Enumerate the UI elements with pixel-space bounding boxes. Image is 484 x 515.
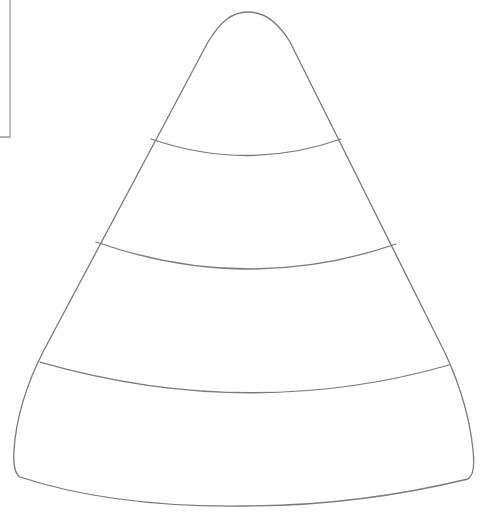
drawing-canvas xyxy=(0,0,484,515)
candy-corn-outline xyxy=(14,12,474,506)
band-divider-3 xyxy=(40,362,449,393)
partial-frame xyxy=(0,0,10,137)
band-divider-1 xyxy=(151,139,341,156)
band-divider-2 xyxy=(96,242,396,269)
